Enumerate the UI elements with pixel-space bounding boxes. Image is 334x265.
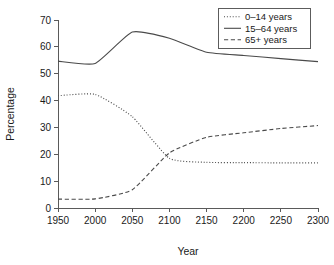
x-axis-title: Year: [177, 245, 199, 257]
x-tick-label: 1950: [47, 215, 70, 226]
x-axis-ticks: 19502000205021002150220022502300: [47, 208, 330, 226]
legend-label: 15–64 years: [245, 23, 298, 34]
x-tick-label: 2200: [233, 215, 256, 226]
x-tick-label: 2150: [195, 215, 218, 226]
y-tick-label: 10: [40, 176, 52, 187]
x-tick-label: 2300: [307, 215, 330, 226]
chart-legend[interactable]: 0–14 years15–64 years65+ years: [219, 9, 311, 49]
y-tick-label: 20: [40, 149, 52, 160]
legend-label: 65+ years: [245, 34, 287, 45]
y-tick-label: 50: [40, 68, 52, 79]
y-tick-label: 40: [40, 95, 52, 106]
chart-canvas: 010203040506070 195020002050210021502200…: [0, 0, 334, 265]
y-tick-label: 30: [40, 122, 52, 133]
x-tick-label: 2250: [270, 215, 293, 226]
x-tick-label: 2100: [158, 215, 181, 226]
y-axis-title: Percentage: [4, 87, 16, 141]
legend-label: 0–14 years: [245, 11, 292, 22]
population-age-structure-chart: 010203040506070 195020002050210021502200…: [0, 0, 334, 265]
y-tick-label: 70: [40, 15, 52, 26]
x-tick-label: 2000: [84, 215, 107, 226]
y-axis-ticks: 010203040506070: [40, 15, 58, 214]
y-tick-label: 60: [40, 41, 52, 52]
y-tick-label: 0: [45, 203, 51, 214]
x-tick-label: 2050: [121, 215, 144, 226]
